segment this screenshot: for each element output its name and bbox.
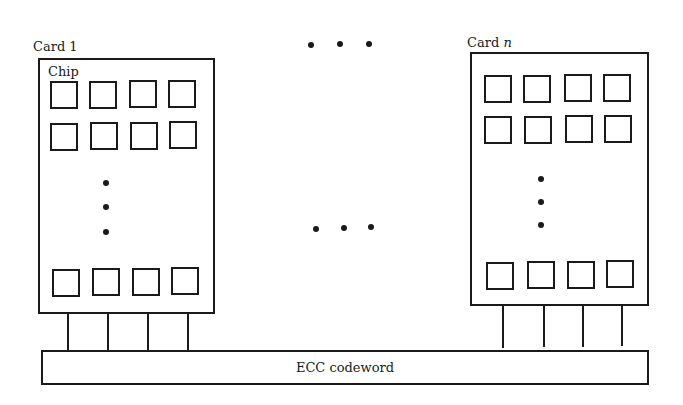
connector-line [187, 313, 189, 353]
vertical-ellipsis-dot [538, 222, 544, 228]
ecc-codeword-bus: ECC codeword [41, 350, 649, 385]
chip [604, 115, 632, 143]
chip [603, 74, 631, 102]
vertical-ellipsis-dot [103, 180, 109, 186]
connector-line [502, 305, 504, 348]
vertical-ellipsis-dot [538, 176, 544, 182]
chip [486, 262, 514, 290]
horizontal-ellipsis-dot [341, 225, 347, 231]
chip [50, 123, 78, 151]
connector-line [67, 313, 69, 354]
chip-label: Chip [48, 65, 79, 79]
chip [524, 116, 552, 144]
chip [168, 80, 196, 108]
connector-line [147, 313, 149, 353]
chip [606, 260, 634, 288]
chip [565, 115, 593, 143]
chip [564, 74, 592, 102]
horizontal-ellipsis-dot [368, 224, 374, 230]
chip [132, 268, 160, 296]
chip [52, 269, 80, 297]
chip [567, 261, 595, 289]
card-1-label: Card 1 [33, 40, 78, 54]
card-n-label: Card n [467, 36, 512, 50]
vertical-ellipsis-dot [103, 229, 109, 235]
chip [527, 261, 555, 289]
vertical-ellipsis-dot [103, 204, 109, 210]
chip [90, 122, 118, 150]
connector-line [621, 305, 623, 346]
card-n-label-var: n [503, 35, 511, 50]
chip [89, 81, 117, 109]
chip [171, 267, 199, 295]
horizontal-ellipsis-dot [366, 41, 372, 47]
horizontal-ellipsis-dot [308, 42, 314, 48]
chip [484, 116, 512, 144]
chip [92, 268, 120, 296]
vertical-ellipsis-dot [538, 199, 544, 205]
chip [169, 121, 197, 149]
chip [523, 75, 551, 103]
connector-line [107, 313, 109, 354]
connector-line [543, 305, 545, 347]
horizontal-ellipsis-dot [313, 226, 319, 232]
chip [130, 122, 158, 150]
card-n-label-prefix: Card [467, 35, 503, 50]
chip [129, 80, 157, 108]
ecc-codeword-label: ECC codeword [296, 360, 394, 375]
chip [484, 75, 512, 103]
chip [50, 81, 78, 109]
horizontal-ellipsis-dot [337, 41, 343, 47]
connector-line [582, 305, 584, 347]
